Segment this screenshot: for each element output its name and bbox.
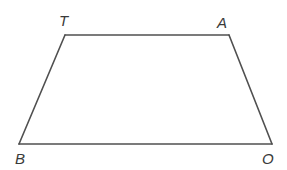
edge-ao	[229, 35, 272, 144]
vertex-label-o: O	[262, 150, 274, 167]
vertex-label-b: B	[15, 150, 25, 167]
trapezoid-diagram: T A B O	[0, 0, 287, 170]
edge-bt	[19, 35, 65, 144]
vertex-label-t: T	[59, 12, 70, 29]
vertex-label-a: A	[216, 14, 227, 31]
